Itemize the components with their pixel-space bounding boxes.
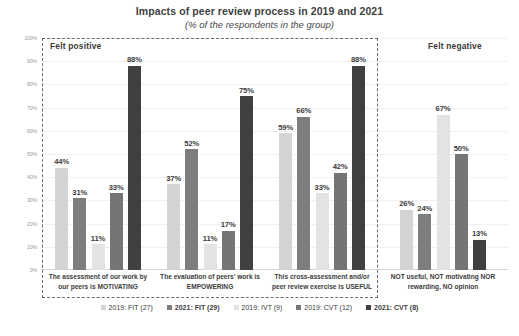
bar-slot[interactable]: 75%: [240, 38, 253, 270]
bar-slot[interactable]: 52%: [185, 38, 198, 270]
category-label-line: peer review exercise is USEFUL: [268, 282, 376, 292]
felt-negative-label: Felt negative: [428, 41, 482, 51]
y-axis-tick: 10%: [27, 244, 37, 250]
title-block: Impacts of peer review process in 2019 a…: [0, 4, 519, 31]
bar-value-label: 17%: [221, 220, 236, 229]
bar-slot[interactable]: 88%: [128, 38, 141, 270]
bar[interactable]: [185, 149, 198, 270]
bar-slot[interactable]: 26%: [400, 38, 413, 270]
bar[interactable]: [167, 184, 180, 270]
y-axis-tick: 40%: [27, 174, 37, 180]
legend-item[interactable]: 2021: CVT (8): [366, 304, 418, 311]
bar-slot[interactable]: 33%: [110, 38, 123, 270]
y-axis-tick: 30%: [27, 197, 37, 203]
bar-value-label: 88%: [127, 55, 142, 64]
bar[interactable]: [297, 117, 310, 270]
bar[interactable]: [316, 193, 329, 270]
bar-groups: 44%31%11%33%88%37%52%11%17%75%59%66%33%4…: [42, 38, 508, 270]
bar-value-label: 24%: [417, 204, 432, 213]
bar-value-label: 11%: [203, 234, 217, 243]
bar-value-label: 42%: [333, 162, 348, 171]
bar[interactable]: [240, 96, 253, 270]
bar-value-label: 66%: [296, 106, 311, 115]
bar[interactable]: [352, 66, 365, 270]
bar-slot[interactable]: 66%: [297, 38, 310, 270]
bar-slot[interactable]: 67%: [437, 38, 450, 270]
bar-slot[interactable]: 11%: [92, 38, 105, 270]
bar[interactable]: [128, 66, 141, 270]
bar[interactable]: [55, 168, 68, 270]
bar[interactable]: [400, 210, 413, 270]
category-label-line: The assessment of our work by: [44, 272, 152, 282]
bar-value-label: 11%: [91, 234, 105, 243]
bar[interactable]: [110, 193, 123, 270]
legend-label: 2021: CVT (8): [374, 304, 418, 311]
y-axis: 100%90%80%70%60%50%40%30%20%10%0%: [0, 38, 40, 270]
category-label-line: The evaluation of peers' work is: [156, 272, 264, 282]
bar-value-label: 50%: [454, 144, 469, 153]
y-axis-tick: 90%: [27, 58, 37, 64]
legend-item[interactable]: 2019: CVT (12): [296, 304, 352, 311]
category-label: The evaluation of peers' work isEMPOWERI…: [154, 272, 266, 291]
y-axis-tick: 70%: [27, 105, 37, 111]
bar-slot[interactable]: 33%: [316, 38, 329, 270]
bar-slot[interactable]: 13%: [473, 38, 486, 270]
bar[interactable]: [279, 133, 292, 270]
legend-swatch-icon: [234, 305, 239, 310]
legend-label: 2019: CVT (12): [304, 304, 352, 311]
bar[interactable]: [437, 115, 450, 270]
bar-slot[interactable]: 59%: [279, 38, 292, 270]
bar-value-label: 33%: [315, 183, 330, 192]
bar-value-label: 44%: [54, 157, 69, 166]
chart-title: Impacts of peer review process in 2019 a…: [0, 4, 519, 18]
category-label-line: This cross-assessment and/or: [268, 272, 376, 282]
bar-slot[interactable]: 88%: [352, 38, 365, 270]
bar-slot[interactable]: 31%: [73, 38, 86, 270]
category-label-line: rewarding, NO opinion: [380, 282, 506, 292]
y-axis-tick: 20%: [27, 221, 37, 227]
chart-legend: 2019: FIT (27)2021: FIT (29)2019: IVT (9…: [0, 304, 519, 311]
bar[interactable]: [334, 173, 347, 270]
category-label-line: our peers is MOTIVATING: [44, 282, 152, 292]
bar-value-label: 31%: [72, 188, 87, 197]
bar-value-label: 52%: [184, 139, 199, 148]
bar[interactable]: [73, 198, 86, 270]
y-axis-tick: 0%: [30, 267, 37, 273]
felt-positive-label: Felt positive: [50, 41, 101, 51]
y-axis-tick: 100%: [24, 35, 37, 41]
category-label-line: NOT useful, NOT motivating NOR: [380, 272, 506, 282]
bar-group: 59%66%33%42%88%: [266, 38, 378, 270]
bar-value-label: 33%: [109, 183, 124, 192]
legend-swatch-icon: [366, 305, 371, 310]
category-label: NOT useful, NOT motivating NORrewarding,…: [378, 272, 508, 291]
bar-slot[interactable]: 37%: [167, 38, 180, 270]
bar-slot[interactable]: 11%: [204, 38, 217, 270]
legend-label: 2021: FIT (29): [175, 304, 220, 311]
bar-slot[interactable]: 42%: [334, 38, 347, 270]
bar-slot[interactable]: 50%: [455, 38, 468, 270]
bar-slot[interactable]: 44%: [55, 38, 68, 270]
legend-swatch-icon: [167, 305, 172, 310]
legend-item[interactable]: 2021: FIT (29): [167, 304, 220, 311]
bar-slot[interactable]: 24%: [418, 38, 431, 270]
y-axis-tick: 60%: [27, 128, 37, 134]
bar[interactable]: [455, 154, 468, 270]
y-axis-tick: 50%: [27, 151, 37, 157]
chart-subtitle: (% of the respondents in the group): [0, 18, 519, 31]
legend-label: 2019: FIT (27): [109, 304, 153, 311]
bar[interactable]: [204, 244, 217, 270]
legend-item[interactable]: 2019: IVT (9): [234, 304, 283, 311]
legend-swatch-icon: [296, 305, 301, 310]
bar-value-label: 26%: [399, 199, 414, 208]
bar[interactable]: [473, 240, 486, 270]
bar-slot[interactable]: 17%: [222, 38, 235, 270]
legend-item[interactable]: 2019: FIT (27): [101, 304, 153, 311]
bar[interactable]: [92, 244, 105, 270]
bar[interactable]: [222, 231, 235, 270]
bar[interactable]: [418, 214, 431, 270]
bar-group: 26%24%67%50%13%: [378, 38, 508, 270]
y-axis-tick: 80%: [27, 81, 37, 87]
bar-value-label: 67%: [436, 104, 451, 113]
plot-area: 100%90%80%70%60%50%40%30%20%10%0% 44%31%…: [0, 38, 519, 270]
legend-swatch-icon: [101, 305, 106, 310]
